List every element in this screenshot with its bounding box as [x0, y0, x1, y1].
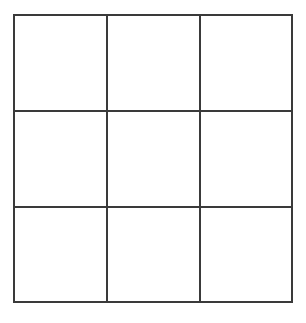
canvas: [0, 0, 306, 323]
grid-cell-r1-c2: [108, 16, 199, 110]
grid-cell-r2-c2: [108, 112, 199, 206]
grid-cell-r2-c3: [201, 112, 291, 206]
grid-cell-r2-c1: [15, 112, 106, 206]
grid-cell-r1-c3: [201, 16, 291, 110]
grid-cell-r3-c1: [15, 208, 106, 301]
grid-cell-r3-c2: [108, 208, 199, 301]
grid-cell-r3-c3: [201, 208, 291, 301]
grid-cell-r1-c1: [15, 16, 106, 110]
three-by-three-grid: [13, 14, 293, 303]
